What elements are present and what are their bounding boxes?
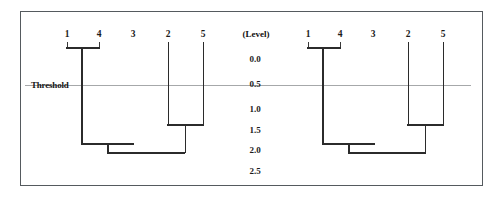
right-merge-bar-1-4 <box>307 47 341 49</box>
right-cluster-stem-25 <box>425 124 427 153</box>
left-leaf-label-5: 5 <box>195 29 211 39</box>
right-leaf-stem-5 <box>443 42 445 125</box>
level-tick-5: 2.5 <box>238 166 272 176</box>
right-leaf-label-5: 5 <box>435 29 451 39</box>
left-leaf-stem-5 <box>203 42 205 125</box>
threshold-label: Threshold <box>31 80 69 90</box>
left-merge-bar-root <box>107 152 185 154</box>
level-tick-1: 0.5 <box>238 79 272 89</box>
left-cluster-stem-14 <box>81 47 83 144</box>
level-tick-3: 1.5 <box>238 125 272 135</box>
level-tick-2: 1.0 <box>238 104 272 114</box>
right-merge-bar-root <box>348 152 426 154</box>
left-leaf-label-1: 1 <box>59 29 75 39</box>
left-cluster-stem-25 <box>185 124 187 153</box>
right-cluster-stem-14 <box>322 47 324 144</box>
left-leaf-label-3: 3 <box>125 29 141 39</box>
left-leaf-stem-2 <box>168 42 170 125</box>
left-leaf-label-4: 4 <box>91 29 107 39</box>
level-tick-4: 2.0 <box>238 145 272 155</box>
level-tick-0: 0.0 <box>238 54 272 64</box>
left-leaf-label-2: 2 <box>160 29 176 39</box>
right-leaf-stem-2 <box>408 42 410 125</box>
left-merge-bar-1-4 <box>66 47 100 49</box>
level-axis-title: (Level) <box>233 29 279 39</box>
dendrogram-figure: Threshold (Level) 0.0 0.5 1.0 1.5 2.0 2.… <box>0 0 501 208</box>
right-leaf-label-2: 2 <box>400 29 416 39</box>
right-leaf-label-1: 1 <box>300 29 316 39</box>
right-leaf-label-4: 4 <box>332 29 348 39</box>
right-leaf-label-3: 3 <box>365 29 381 39</box>
